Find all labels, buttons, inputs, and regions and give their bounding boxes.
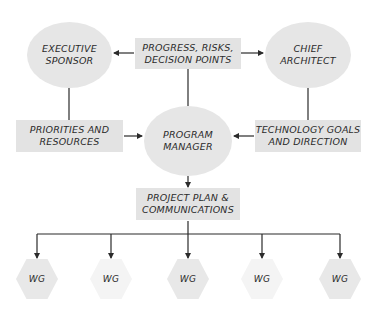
working-group-4: WG: [241, 259, 283, 299]
program-manager-label: PROGRAM MANAGER: [163, 129, 213, 153]
governance-diagram: EXECUTIVE SPONSOR CHIEF ARCHITECT PROGRA…: [0, 0, 372, 316]
executive-sponsor-label: EXECUTIVE SPONSOR: [42, 43, 97, 67]
working-group-label: WG: [29, 273, 45, 285]
priorities-resources-label: PRIORITIES AND RESOURCES: [30, 124, 109, 148]
priorities-resources-box: PRIORITIES AND RESOURCES: [16, 120, 123, 152]
technology-goals-label: TECHNOLOGY GOALS AND DIRECTION: [256, 124, 361, 148]
project-plan-label: PROJECT PLAN & COMMUNICATIONS: [142, 192, 234, 216]
working-group-2: WG: [90, 259, 132, 299]
chief-architect-node: CHIEF ARCHITECT: [265, 22, 351, 88]
working-group-3: WG: [167, 259, 209, 299]
program-manager-node: PROGRAM MANAGER: [144, 106, 232, 176]
progress-risks-label: PROGRESS, RISKS, DECISION POINTS: [142, 42, 233, 66]
working-group-1: WG: [16, 259, 58, 299]
working-group-label: WG: [180, 273, 196, 285]
chief-architect-label: CHIEF ARCHITECT: [280, 43, 336, 67]
working-group-5: WG: [319, 259, 361, 299]
technology-goals-box: TECHNOLOGY GOALS AND DIRECTION: [255, 120, 361, 152]
project-plan-box: PROJECT PLAN & COMMUNICATIONS: [136, 188, 240, 220]
progress-risks-box: PROGRESS, RISKS, DECISION POINTS: [135, 38, 241, 69]
working-group-label: WG: [332, 273, 348, 285]
working-group-label: WG: [254, 273, 270, 285]
working-group-label: WG: [103, 273, 119, 285]
executive-sponsor-node: EXECUTIVE SPONSOR: [27, 22, 112, 88]
